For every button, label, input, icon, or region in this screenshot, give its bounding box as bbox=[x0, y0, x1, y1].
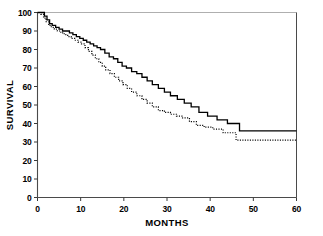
y-tick-label: 10 bbox=[0, 174, 32, 184]
x-tick-label: 30 bbox=[162, 204, 171, 214]
y-tick-label: 100 bbox=[0, 8, 32, 18]
y-tick-label: 90 bbox=[0, 26, 32, 36]
data-series-group bbox=[38, 13, 297, 141]
x-tick-label: 60 bbox=[292, 204, 301, 214]
y-tick-label: 30 bbox=[0, 137, 32, 147]
x-tick-label: 50 bbox=[249, 204, 258, 214]
series-solid-curve bbox=[38, 13, 297, 131]
y-tick-label: 0 bbox=[0, 193, 32, 203]
series-dotted-curve bbox=[38, 13, 297, 141]
axis-frame bbox=[38, 13, 297, 198]
x-tick-label: 40 bbox=[206, 204, 215, 214]
y-tick-label: 20 bbox=[0, 156, 32, 166]
survival-chart-figure: 0102030405060708090100 0102030405060 MON… bbox=[0, 0, 323, 236]
plot-canvas bbox=[0, 0, 323, 236]
x-axis-title: MONTHS bbox=[145, 217, 189, 228]
y-axis-title: SURVIVAL bbox=[4, 80, 15, 130]
x-tick-label: 10 bbox=[76, 204, 85, 214]
x-tick-label: 20 bbox=[119, 204, 128, 214]
x-tick-label: 0 bbox=[35, 204, 40, 214]
axis-ticks bbox=[34, 13, 297, 202]
y-tick-label: 70 bbox=[0, 63, 32, 73]
y-tick-label: 80 bbox=[0, 45, 32, 55]
